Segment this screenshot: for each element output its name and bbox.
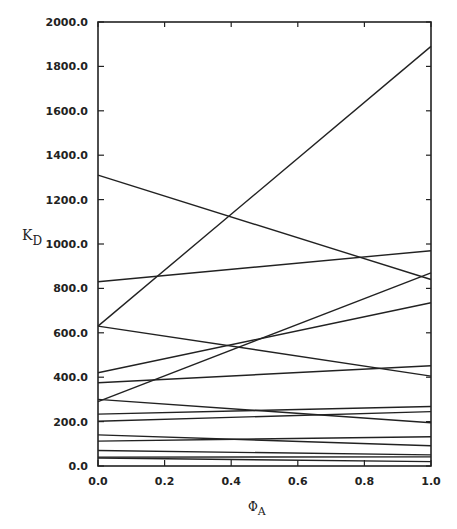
y-tick-label: 1800.0 xyxy=(46,60,89,73)
x-tick-label: 0.8 xyxy=(355,475,375,488)
y-axis-ticks: 0.0200.0400.0600.0800.01000.01200.01400.… xyxy=(46,16,431,473)
x-tick-label: 0.4 xyxy=(221,475,241,488)
series-line-1 xyxy=(98,46,431,326)
y-tick-label: 1000.0 xyxy=(46,238,89,251)
y-tick-label: 200.0 xyxy=(53,416,88,429)
y-axis-title: KD xyxy=(22,227,42,248)
y-tick-label: 1200.0 xyxy=(46,194,89,207)
x-tick-label: 0.2 xyxy=(155,475,175,488)
y-tick-label: 1400.0 xyxy=(46,149,89,162)
chart: 0.0200.0400.0600.0800.01000.01200.01400.… xyxy=(0,0,457,529)
y-tick-label: 400.0 xyxy=(53,371,88,384)
x-tick-label: 0.6 xyxy=(288,475,308,488)
series-lines xyxy=(98,46,431,461)
series-line-3 xyxy=(98,251,431,282)
series-line-6 xyxy=(98,303,431,373)
y-tick-label: 600.0 xyxy=(53,327,88,340)
x-tick-label: 1.0 xyxy=(421,475,441,488)
y-axis-title-subscript: D xyxy=(32,234,42,248)
y-tick-label: 0.0 xyxy=(69,460,89,473)
x-tick-label: 0.0 xyxy=(88,475,108,488)
series-line-7 xyxy=(98,366,431,383)
y-tick-label: 2000.0 xyxy=(46,16,89,29)
x-axis-title-symbol: Φ xyxy=(248,500,258,514)
y-axis-title-symbol: K xyxy=(22,227,33,243)
x-axis-title-subscript: A xyxy=(257,505,267,518)
series-line-2 xyxy=(98,175,431,279)
x-axis-title: ΦA xyxy=(248,500,267,518)
y-tick-label: 1600.0 xyxy=(46,105,89,118)
series-line-15 xyxy=(98,458,431,462)
series-line-13 xyxy=(98,451,431,455)
y-tick-label: 800.0 xyxy=(53,282,88,295)
